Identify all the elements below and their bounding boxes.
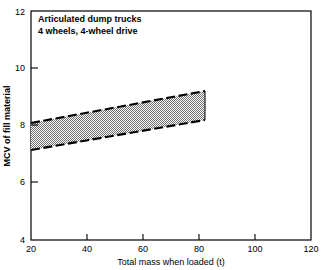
x-tick-label-100: 100 <box>247 244 262 254</box>
y-axis-title: MCV of fill material <box>2 85 12 166</box>
x-tick-label-40: 40 <box>82 244 92 254</box>
y-tick-label-4: 4 <box>20 235 25 245</box>
y-tick-label-10: 10 <box>15 63 25 73</box>
annotation-line-2: 4 wheels, 4-wheel drive <box>38 26 138 36</box>
y-tick-label-6: 6 <box>20 177 25 187</box>
x-tick-label-20: 20 <box>26 244 36 254</box>
annotation-line-1: Articulated dump trucks <box>38 14 142 24</box>
x-tick-label-120: 120 <box>303 244 318 254</box>
y-tick-label-12: 12 <box>15 7 25 17</box>
x-tick-label-80: 80 <box>194 244 204 254</box>
x-tick-label-60: 60 <box>138 244 148 254</box>
chart-canvas: 20 40 60 80 100 120 4 6 8 10 12 Total ma… <box>0 0 321 270</box>
x-axis-title: Total mass when loaded (t) <box>117 257 225 267</box>
chart-figure: 20 40 60 80 100 120 4 6 8 10 12 Total ma… <box>0 0 321 270</box>
y-tick-label-8: 8 <box>20 120 25 130</box>
